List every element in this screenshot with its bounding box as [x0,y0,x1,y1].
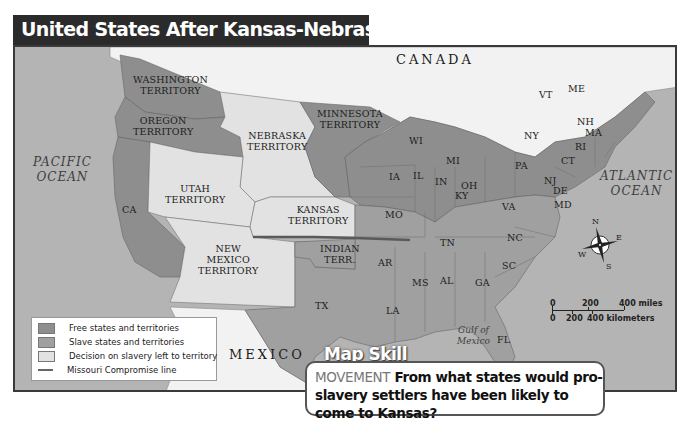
map-title: United States After Kansas-Nebraska Act [21,18,439,40]
decision-swatch [38,351,55,362]
label-kansas-territory: KANSAS TERRITORY [288,204,348,226]
compass-e: E [616,233,622,242]
label-md: MD [554,199,572,210]
map: CANADA MEXICO PACIFIC OCEAN ATLANTIC OCE… [13,45,677,392]
label-canada: CANADA [396,52,474,67]
label-atlantic-ocean: ATLANTIC OCEAN [600,169,673,199]
label-ky: KY [455,190,469,201]
label-va: VA [502,201,515,212]
compass-w: W [578,250,586,259]
legend-item-slave: Slave states and territories [38,336,184,348]
label-mi: MI [446,155,460,166]
label-al: AL [440,275,454,286]
label-utah-territory: UTAH TERRITORY [165,183,225,205]
label-vt: VT [539,89,553,100]
label-la: LA [386,305,400,316]
label-mexico: MEXICO [229,347,305,362]
label-ca: CA [122,204,137,215]
label-gulf-of-mexico: Gulf of Mexico [457,325,490,347]
compass-rose-icon [580,225,620,265]
label-ms: MS [412,277,429,288]
label-nh: NH [577,116,594,127]
label-indian-territory: INDIAN TERR. [320,243,360,265]
legend-item-decision: Decision on slavery left to territory [38,350,217,362]
compass-n: N [592,217,599,226]
compass-s: S [606,262,611,271]
map-title-bar: United States After Kansas-Nebraska Act [13,15,369,45]
label-ma: MA [585,127,602,138]
label-nc: NC [507,232,523,243]
map-skill-box: MOVEMENT From what states would pro-slav… [305,361,605,416]
label-me: ME [568,83,585,94]
label-new-mexico-territory: NEW MEXICO TERRITORY [198,243,258,276]
label-fl: FL [497,334,510,345]
label-tn: TN [440,237,455,248]
label-pacific-ocean: PACIFIC OCEAN [33,155,92,185]
label-oregon-territory: OREGON TERRITORY [133,115,193,137]
label-ia: IA [389,171,400,182]
label-sc: SC [502,260,516,271]
label-washington-territory: WASHINGTON TERRITORY [133,74,208,96]
legend-item-free: Free states and territories [38,322,179,334]
label-ri: RI [575,141,586,152]
label-mo: MO [385,209,403,220]
label-minnesota-territory: MINNESOTA TERRITORY [317,108,383,130]
label-ct: CT [561,155,575,166]
label-ga: GA [475,277,490,288]
label-in: IN [435,176,447,187]
label-pa: PA [515,160,528,171]
label-nebraska-territory: NEBRASKA TERRITORY [247,130,307,152]
map-skill-question: MOVEMENT From what states would pro-slav… [315,368,605,422]
label-tx: TX [315,300,329,311]
label-il: IL [413,170,423,181]
skill-keyword: MOVEMENT [315,369,390,385]
label-ar: AR [378,257,392,268]
free-swatch [38,323,55,334]
slave-swatch [38,337,55,348]
map-legend: Free states and territories Slave states… [31,317,217,381]
label-wi: WI [409,135,423,146]
label-ny: NY [524,130,539,141]
legend-item-missouri-line: Missouri Compromise line [38,364,176,376]
label-de: DE [553,185,568,196]
line-swatch [38,369,53,371]
